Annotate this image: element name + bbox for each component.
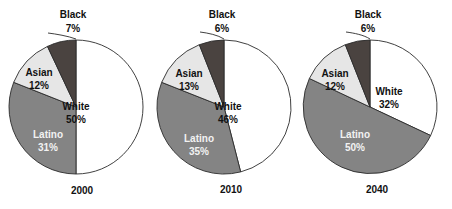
slice-label-latino-2000: Latino — [33, 129, 63, 140]
slice-value-asian-2040: 12% — [325, 81, 345, 92]
slice-label-black-2000: Black — [60, 9, 87, 20]
slice-value-asian-2010: 13% — [179, 81, 199, 92]
slice-label-white-2040: White — [375, 86, 403, 97]
slice-value-latino-2010: 35% — [189, 146, 209, 157]
pie-charts-svg: White 50% Latino 31% Asian 12% Black 7% … — [0, 0, 452, 209]
slice-value-black-2040: 6% — [361, 23, 376, 34]
slice-label-latino-2040: Latino — [340, 129, 370, 140]
slice-label-white-2010: White — [214, 101, 242, 112]
slice-label-black-2010: Black — [209, 9, 236, 20]
chart-year-2000: 2000 — [71, 185, 94, 196]
slice-value-latino-2000: 31% — [38, 142, 58, 153]
slice-label-white-2000: White — [62, 101, 90, 112]
slice-value-white-2000: 50% — [66, 114, 86, 125]
slice-label-asian-2010: Asian — [175, 68, 202, 79]
slice-value-black-2010: 6% — [215, 23, 230, 34]
pie-chart-2010: White 46% Latino 35% Asian 13% Black 6% … — [157, 9, 291, 195]
slice-label-latino-2010: Latino — [184, 133, 214, 144]
slice-value-white-2040: 32% — [379, 99, 399, 110]
slice-value-black-2000: 7% — [66, 23, 81, 34]
pie-chart-2040: White 32% Latino 50% Asian 12% Black 6% … — [303, 9, 437, 195]
slice-label-asian-2000: Asian — [25, 67, 52, 78]
slice-label-asian-2040: Asian — [321, 68, 348, 79]
slice-value-white-2010: 46% — [218, 114, 238, 125]
slice-value-asian-2000: 12% — [29, 80, 49, 91]
pie-chart-2000: White 50% Latino 31% Asian 12% Black 7% … — [9, 9, 143, 196]
pie-chart-group: White 50% Latino 31% Asian 12% Black 7% … — [0, 0, 452, 209]
slice-label-black-2040: Black — [355, 9, 382, 20]
leader-line-black-2000 — [48, 33, 76, 39]
chart-year-2040: 2040 — [366, 184, 389, 195]
slice-value-latino-2040: 50% — [345, 142, 365, 153]
chart-year-2010: 2010 — [220, 184, 243, 195]
